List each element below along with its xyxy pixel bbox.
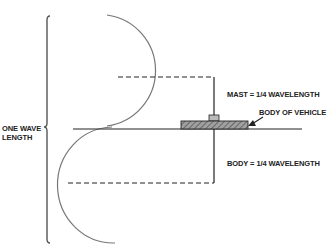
mast-base (209, 115, 219, 121)
one-wave-line1: ONE WAVE (2, 124, 41, 133)
antenna-wavelength-diagram (0, 0, 330, 252)
arrow-head-icon (248, 120, 256, 126)
one-wavelength-label: ONE WAVE LENGTH (2, 124, 41, 142)
body-of-vehicle-label: BODY OF VEHICLE (259, 108, 326, 117)
wavelength-brace (44, 16, 50, 243)
mast-label: MAST = 1/4 WAVELENGTH (227, 90, 320, 99)
body-quarter-wave-label: BODY = 1/4 WAVELENGTH (227, 159, 320, 168)
lower-wave-arc (57, 127, 115, 243)
vehicle-body (181, 121, 248, 129)
upper-wave-arc (107, 15, 156, 126)
one-wave-line2: LENGTH (2, 133, 41, 142)
